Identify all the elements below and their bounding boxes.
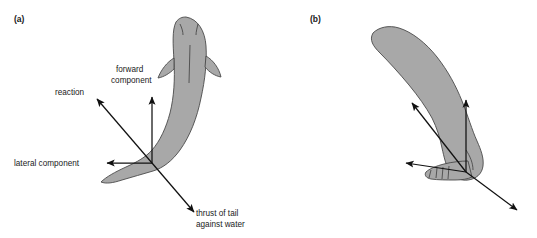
biomechanics-figure: (a) reaction [0, 0, 537, 238]
panel-a: (a) reaction [14, 14, 245, 229]
label-reaction: reaction [55, 88, 85, 97]
fish-pectoral-fin-right [205, 56, 221, 77]
vector-thrust-a [152, 163, 194, 212]
label-thrust-line2: against water [196, 220, 245, 229]
label-forward-component-line1: forward [116, 65, 144, 74]
label-thrust-line1: thrust of tail [196, 209, 239, 218]
vector-thrust-b [466, 172, 517, 210]
panel-a-label: (a) [14, 14, 25, 24]
label-forward-component-line2: component [111, 76, 152, 85]
fish-body-group [101, 17, 221, 183]
figure-canvas: (a) reaction [0, 0, 537, 238]
panel-b-label: (b) [310, 14, 321, 24]
fish-pectoral-fin-left [158, 58, 174, 78]
vector-reaction-a [97, 99, 152, 163]
panel-b: (b) [310, 14, 517, 210]
label-lateral-component: lateral component [14, 159, 80, 168]
fish-body-shape [101, 17, 206, 183]
